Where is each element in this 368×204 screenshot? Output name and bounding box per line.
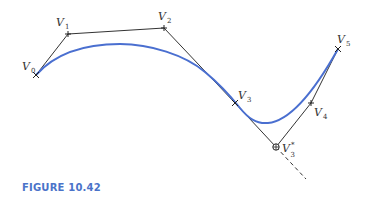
v3-star-marker-icon (273, 144, 279, 150)
vertex-markers (33, 25, 341, 106)
label-v4: V4 (314, 106, 328, 121)
spline-curve (36, 44, 338, 123)
label-v1: V1 (56, 16, 69, 31)
spline-diagram: V0 V1 V2 V3 V*3 V4 V5 (0, 0, 368, 204)
label-v3-star: V*3 (282, 141, 295, 159)
label-v5: V5 (337, 33, 350, 48)
figure-caption: FIGURE 10.42 (22, 182, 101, 193)
label-v2: V2 (158, 10, 171, 25)
control-polygon (36, 28, 338, 147)
label-v0: V0 (22, 60, 35, 75)
label-v3: V3 (238, 89, 251, 104)
v5-marker-icon (335, 46, 341, 52)
